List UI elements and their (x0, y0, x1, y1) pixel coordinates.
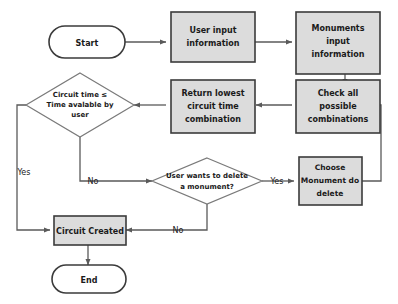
node-time-check[interactable]: Circuit time ≤ Time avalable by user (26, 73, 134, 137)
edge-label-no-delete: No (173, 226, 184, 235)
edge-delete-question-no-to-circuit-created (126, 204, 207, 230)
node-circuit-created[interactable]: Circuit Created (54, 216, 126, 245)
return-lowest-label-line-1: Return lowest (181, 89, 244, 98)
check-combinations-label-line-2: possible (319, 102, 357, 111)
node-delete-question[interactable]: User wants to delete a monument? (152, 158, 262, 204)
edge-label-yes-delete: Yes (270, 177, 284, 186)
monuments-input-label-line-1: Monuments (312, 24, 365, 33)
choose-monument-label-line-3: delete (317, 189, 344, 198)
delete-question-label-line-1: User wants to delete (166, 172, 248, 180)
node-start[interactable]: Start (49, 26, 125, 58)
circuit-created-label: Circuit Created (56, 227, 124, 236)
check-combinations-label-line-3: combinations (308, 115, 369, 124)
check-combinations-label-line-1: Check all (318, 89, 359, 98)
node-user-input[interactable]: User input information (171, 12, 255, 62)
node-check-combinations[interactable]: Check all possible combinations (296, 80, 380, 133)
edge-label-no-time-check: No (88, 177, 99, 186)
choose-monument-label-line-1: Choose (315, 163, 346, 172)
node-monuments-input[interactable]: Monuments input information (296, 12, 380, 74)
edge-label-yes-time-check: Yes (17, 168, 31, 177)
node-return-lowest[interactable]: Return lowest circuit time combination (171, 80, 255, 133)
return-lowest-label-line-2: circuit time (187, 102, 239, 111)
monuments-input-label-line-3: information (312, 50, 365, 59)
user-input-label-line-2: information (187, 39, 240, 48)
delete-question-shape (152, 158, 262, 204)
user-input-label-line-1: User input (189, 26, 236, 35)
delete-question-label-line-2: a monument? (180, 183, 234, 191)
edge-time-check-no-to-delete-question (80, 137, 152, 181)
flowchart-canvas: Yes No Yes No Start User input informati… (0, 0, 398, 304)
node-choose-monument[interactable]: Choose Monument do delete (299, 157, 362, 205)
start-label: Start (76, 39, 99, 48)
node-end[interactable]: End (52, 265, 126, 293)
flowchart-svg: Yes No Yes No Start User input informati… (0, 0, 398, 304)
time-check-label-line-2: Time avalable by (47, 101, 114, 109)
time-check-label-line-1: Circuit time ≤ (53, 91, 108, 99)
return-lowest-label-line-3: combination (185, 115, 241, 124)
monuments-input-label-line-2: input (326, 37, 350, 46)
user-input-shape (171, 12, 255, 62)
choose-monument-label-line-2: Monument do (301, 176, 359, 185)
time-check-label-line-3: user (71, 111, 89, 119)
end-label: End (81, 276, 98, 285)
